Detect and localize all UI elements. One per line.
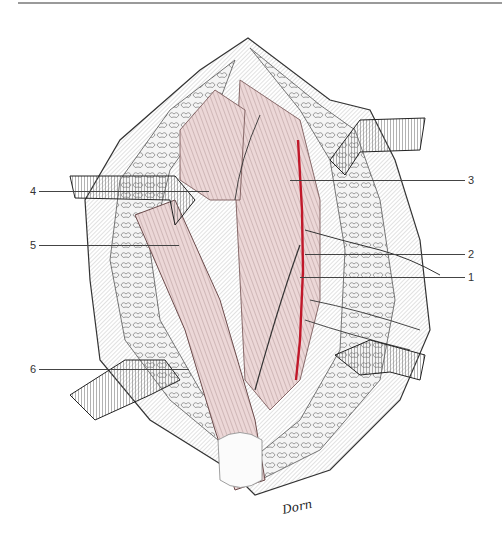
label-5: 5 <box>30 239 36 251</box>
leader-line-2 <box>305 254 465 255</box>
label-2: 2 <box>468 248 474 260</box>
leader-line-5 <box>39 245 179 246</box>
leader-line-1 <box>300 277 465 278</box>
leader-line-4 <box>39 191 209 192</box>
label-3: 3 <box>468 174 474 186</box>
leader-line-6 <box>39 369 189 370</box>
anatomical-illustration <box>0 0 502 559</box>
label-6: 6 <box>30 363 36 375</box>
leader-line-3 <box>290 180 465 181</box>
label-4: 4 <box>30 185 36 197</box>
label-1: 1 <box>468 271 474 283</box>
